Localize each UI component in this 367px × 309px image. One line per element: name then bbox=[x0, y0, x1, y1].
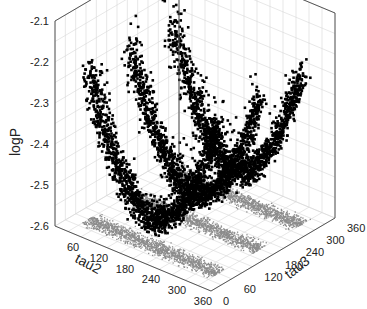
x-tick-label: 360 bbox=[194, 295, 212, 307]
z-tick-label: -2.6 bbox=[30, 220, 49, 232]
scatter3d-chart: -2.1-2.2-2.3-2.4-2.5-2.66012018024030036… bbox=[0, 0, 367, 309]
z-tick-label: -2.4 bbox=[30, 138, 49, 150]
x-tick-label: 300 bbox=[168, 284, 186, 296]
x-tick-label: 240 bbox=[142, 273, 160, 285]
y-tick-label: 240 bbox=[306, 246, 324, 258]
z-tick-label: -2.3 bbox=[30, 97, 49, 109]
axes bbox=[55, 0, 335, 291]
z-tick-label: -2.2 bbox=[30, 56, 49, 68]
data-points bbox=[82, 0, 312, 237]
y-tick-label: 300 bbox=[326, 234, 344, 246]
x-tick-label: 60 bbox=[67, 241, 79, 253]
z-tick-label: -2.5 bbox=[30, 179, 49, 191]
y-tick-label: 0 bbox=[223, 295, 229, 307]
y-tick-label: 360 bbox=[347, 222, 365, 234]
z-axis-label: logP bbox=[7, 128, 23, 156]
y-tick-label: 120 bbox=[264, 271, 282, 283]
y-tick-label: 60 bbox=[244, 283, 256, 295]
z-tick-label: -2.1 bbox=[30, 15, 49, 27]
grid-lines bbox=[55, 0, 335, 291]
x-tick-label: 180 bbox=[116, 263, 134, 275]
